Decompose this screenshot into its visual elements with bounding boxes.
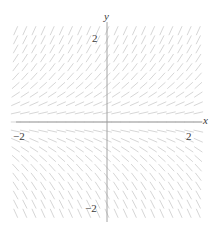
direction-segment	[140, 92, 148, 97]
direction-segment	[139, 130, 148, 132]
direction-segment	[187, 200, 191, 208]
direction-segment	[41, 45, 45, 53]
direction-segment	[113, 173, 118, 180]
direction-segment	[94, 92, 102, 97]
y-tick-label-2: 2	[92, 33, 98, 44]
direction-segment	[32, 27, 36, 35]
direction-segment	[50, 209, 54, 217]
direction-segment	[131, 73, 137, 80]
direction-segment	[167, 112, 176, 114]
direction-segment	[122, 83, 129, 89]
direction-segment	[21, 102, 29, 106]
direction-segment	[141, 200, 145, 208]
direction-segment	[32, 200, 36, 208]
direction-segment	[176, 102, 184, 106]
direction-segment	[112, 102, 120, 106]
direction-segment	[160, 36, 164, 44]
direction-segment	[77, 191, 81, 199]
direction-segment	[159, 164, 165, 171]
direction-segment	[95, 64, 100, 71]
direction-segment	[22, 73, 28, 80]
direction-segment	[50, 173, 55, 180]
direction-segment	[30, 138, 38, 142]
direction-segment	[130, 112, 139, 114]
direction-segment	[84, 112, 93, 114]
direction-segment	[58, 147, 66, 152]
direction-segment	[176, 147, 184, 152]
direction-segment	[67, 83, 74, 89]
direction-segment	[140, 147, 148, 152]
direction-segment	[40, 73, 46, 80]
direction-segment	[130, 138, 138, 142]
direction-segment	[196, 209, 200, 217]
direction-segment	[196, 45, 200, 53]
direction-segment	[177, 64, 182, 71]
direction-segment	[30, 112, 39, 114]
direction-segment	[196, 191, 200, 199]
direction-segment	[40, 173, 45, 180]
direction-segment	[13, 54, 18, 62]
direction-segment	[140, 73, 146, 80]
direction-segment	[68, 182, 73, 190]
direction-segment	[168, 54, 173, 62]
direction-segment	[31, 73, 37, 80]
direction-segment	[40, 156, 47, 162]
direction-segment	[123, 191, 127, 199]
direction-segment	[185, 112, 194, 114]
direction-segment	[123, 200, 127, 208]
direction-segment	[12, 156, 19, 162]
direction-segment	[40, 164, 46, 171]
direction-segment	[141, 173, 146, 180]
direction-segment	[123, 173, 128, 180]
direction-segment	[77, 45, 81, 53]
direction-segment	[31, 156, 38, 162]
direction-segment	[121, 112, 130, 114]
direction-segment	[78, 200, 82, 208]
direction-segment	[112, 92, 120, 97]
direction-segment	[176, 130, 185, 132]
direction-segment	[168, 164, 174, 171]
direction-segment	[177, 83, 184, 89]
direction-segment	[41, 209, 45, 217]
direction-segment	[122, 73, 128, 80]
direction-segment	[59, 200, 63, 208]
direction-segment	[141, 64, 146, 71]
direction-segment	[160, 191, 164, 199]
direction-segment	[114, 209, 118, 217]
direction-segment	[39, 112, 48, 114]
direction-segment	[112, 147, 120, 152]
direction-segment	[59, 27, 63, 35]
direction-segment	[68, 191, 72, 199]
direction-segment	[50, 45, 54, 53]
direction-segment	[41, 182, 46, 190]
direction-segment	[57, 130, 66, 132]
direction-segment	[178, 27, 182, 35]
direction-segment	[131, 92, 139, 97]
direction-segment	[132, 45, 136, 53]
axes-lines	[16, 22, 202, 222]
direction-segment	[12, 147, 20, 152]
direction-segment	[112, 112, 121, 114]
direction-segment	[85, 138, 93, 142]
direction-segment	[84, 130, 93, 132]
direction-segment	[159, 73, 165, 80]
direction-segment	[94, 138, 102, 142]
direction-segment	[50, 182, 55, 190]
direction-segment	[48, 130, 57, 132]
direction-segment	[160, 45, 164, 53]
direction-segment	[41, 54, 46, 62]
direction-segment	[49, 73, 55, 80]
direction-segment	[151, 36, 155, 44]
direction-segment	[94, 102, 102, 106]
direction-segment	[168, 173, 173, 180]
direction-segment	[41, 191, 45, 199]
direction-segment	[187, 191, 191, 199]
direction-segment	[176, 112, 185, 114]
direction-segment	[114, 54, 119, 62]
direction-segment	[142, 27, 146, 35]
direction-segment	[160, 27, 164, 35]
direction-segment	[76, 83, 83, 89]
direction-segment	[150, 45, 154, 53]
direction-segment	[186, 156, 193, 162]
direction-segment	[66, 138, 74, 142]
